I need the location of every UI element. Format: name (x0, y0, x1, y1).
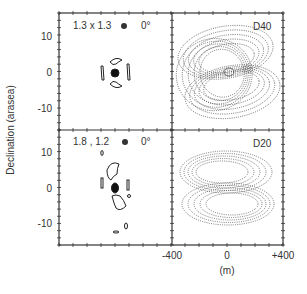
contour-arc (110, 58, 122, 64)
x-tick-label: 0 (224, 250, 230, 261)
fringe-contour (190, 42, 251, 104)
fringe-map-d20 (180, 151, 274, 225)
y-tick-label: 10 (41, 147, 53, 158)
y-axis-label: Declination (arasea) (5, 85, 16, 175)
fringe-contour (206, 193, 258, 215)
y-tick-label: 10 (41, 31, 53, 42)
x-tick-label: +400 (272, 250, 295, 261)
panel-label-angle: 0° (141, 20, 151, 31)
beam-icon (121, 23, 127, 29)
x-axis-unit: (m) (220, 265, 235, 276)
contour-arc (107, 163, 119, 180)
central-source (111, 69, 119, 77)
y-tick-label: -10 (38, 218, 53, 229)
x-tick-label: -400 (162, 250, 182, 261)
contour-bar (101, 178, 103, 188)
contour-blob (128, 195, 131, 198)
fringe-contour (200, 191, 262, 218)
tick-marks (57, 11, 285, 247)
panel-label-angle: 0° (141, 136, 151, 147)
contour-bar (127, 64, 130, 80)
fringe-contour (196, 161, 248, 183)
beam-icon (122, 139, 128, 145)
y-tick-label: 0 (46, 67, 52, 78)
panel-label-config: D20 (253, 138, 272, 149)
fringe-contour (181, 58, 285, 126)
figure: Declination (arasea) 10 0 -10 10 0 -10 -… (0, 0, 307, 294)
central-source (112, 183, 119, 193)
contour-arc (112, 195, 126, 210)
fringe-contour (179, 24, 272, 84)
contour-blob (125, 223, 128, 229)
y-tick-label: -10 (38, 103, 53, 114)
contour-map-bottom-left (101, 151, 131, 234)
fringe-contour (185, 29, 267, 82)
panel-label-beam: 1.8 , 1.2 (73, 136, 110, 147)
contour-bar (127, 180, 129, 190)
contour-blob (101, 151, 103, 156)
panel-label-beam: 1.3 x 1.3 (73, 20, 112, 31)
contour-map-top-left (101, 58, 130, 87)
panel-label-config: D40 (253, 21, 272, 32)
fringe-contour (186, 60, 279, 120)
y-tick-label: 0 (46, 183, 52, 194)
contour-blob (113, 231, 119, 233)
contour-bar (101, 66, 104, 80)
fringe-contour (182, 183, 274, 225)
fringe-contour (180, 151, 272, 193)
fringe-contour (196, 46, 248, 101)
fringe-contour (192, 159, 254, 186)
fringe-map-d40 (169, 18, 284, 126)
contour-arc (110, 81, 122, 87)
